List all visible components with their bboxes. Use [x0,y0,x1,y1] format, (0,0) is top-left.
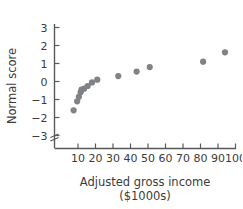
data-point [89,79,95,85]
x-axis-subtitle: ($1000s) [119,189,171,203]
y-tick-marks [55,28,60,136]
data-point [200,59,206,65]
data-point [134,69,140,75]
x-axis-title: Adjusted gross income [80,175,211,189]
scatter-points [71,49,229,113]
y-axis-group: −3−2−10123 [31,22,59,149]
x-tick-label: 70 [176,152,190,165]
x-tick-label: 30 [106,152,120,165]
x-tick-label: 100 [225,152,242,165]
x-tick-label: 10 [71,152,85,165]
data-point [94,77,100,83]
chart-canvas: −3−2−10123 102030405060708090100 Adjuste… [0,0,242,209]
y-tick-label: 1 [41,58,48,71]
normal-probability-plot: −3−2−10123 102030405060708090100 Adjuste… [0,0,242,209]
y-axis-title: Normal score [5,48,19,124]
y-tick-label: 2 [41,40,48,53]
data-point [222,49,228,55]
data-point [147,64,153,70]
data-point [71,107,77,113]
x-axis-group: 102030405060708090100 [55,144,243,165]
x-tick-label: 80 [194,152,208,165]
data-point [115,73,121,79]
y-tick-label: 0 [41,76,48,89]
y-tick-label: −1 [31,94,47,107]
x-tick-label: 90 [211,152,225,165]
y-tick-label: −3 [31,130,47,143]
y-tick-label: −2 [31,112,47,125]
x-tick-label: 50 [141,152,155,165]
x-tick-labels: 102030405060708090100 [71,152,242,165]
x-tick-marks [78,144,236,149]
x-tick-label: 40 [124,152,138,165]
x-tick-label: 20 [89,152,103,165]
x-tick-label: 60 [159,152,173,165]
y-tick-label: 3 [41,22,48,35]
y-tick-labels: −3−2−10123 [31,22,47,143]
